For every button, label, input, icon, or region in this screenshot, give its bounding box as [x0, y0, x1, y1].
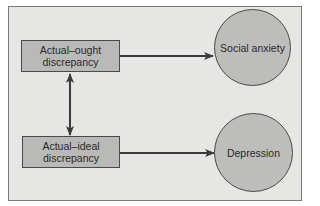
actual-ought-label-line1: Actual–ought — [40, 44, 101, 56]
actual-ought-discrepancy-box: Actual–ought discrepancy — [21, 40, 120, 72]
depression-label: Depression — [227, 147, 280, 159]
actual-ideal-label-line2: discrepancy — [43, 152, 99, 164]
social-anxiety-label: Social anxiety — [220, 42, 285, 54]
depression-node: Depression — [214, 113, 293, 192]
actual-ideal-label-line1: Actual–ideal — [42, 140, 99, 152]
social-anxiety-node: Social anxiety — [214, 9, 291, 86]
actual-ideal-discrepancy-box: Actual–ideal discrepancy — [22, 136, 120, 168]
actual-ought-label-line2: discrepancy — [42, 56, 98, 68]
